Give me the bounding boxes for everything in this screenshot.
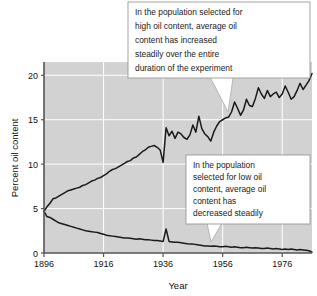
y-axis-title: Percent oil content <box>9 118 20 197</box>
low-callout-line-4: content has <box>193 196 236 206</box>
low-callout-line-2: selected for low oil <box>193 172 262 182</box>
x-tick-label-1936: 1936 <box>153 259 173 269</box>
oil-content-chart-figure: 05101520 18961916193619561976 Percent oi… <box>0 0 317 296</box>
y-tick-label-5: 5 <box>33 204 38 214</box>
high-callout-line-4: steadily over the entire <box>135 49 220 59</box>
x-tick-label-1976: 1976 <box>272 259 292 269</box>
y-tick-label-0: 0 <box>33 249 38 259</box>
y-tick-label-10: 10 <box>28 160 38 170</box>
high-callout-line-5: duration of the experiment <box>135 63 233 73</box>
high-callout-line-1: In the population selected for <box>135 7 243 17</box>
high-callout-line-2: high oil content, average oil <box>135 21 237 31</box>
high-callout-line-3: content has increased <box>135 35 217 45</box>
x-axis-title: Year <box>168 280 187 291</box>
x-tick-label-1896: 1896 <box>34 259 54 269</box>
x-tick-label-1916: 1916 <box>94 259 114 269</box>
chart-svg: 05101520 18961916193619561976 Percent oi… <box>0 0 317 296</box>
y-tick-label-15: 15 <box>28 115 38 125</box>
y-tick-label-20: 20 <box>28 71 38 81</box>
low-callout-line-5: decreased steadily <box>193 208 264 218</box>
x-tick-label-1956: 1956 <box>213 259 233 269</box>
low-callout-line-3: content, average oil <box>193 184 266 194</box>
low-callout-line-1: In the population <box>193 160 255 170</box>
